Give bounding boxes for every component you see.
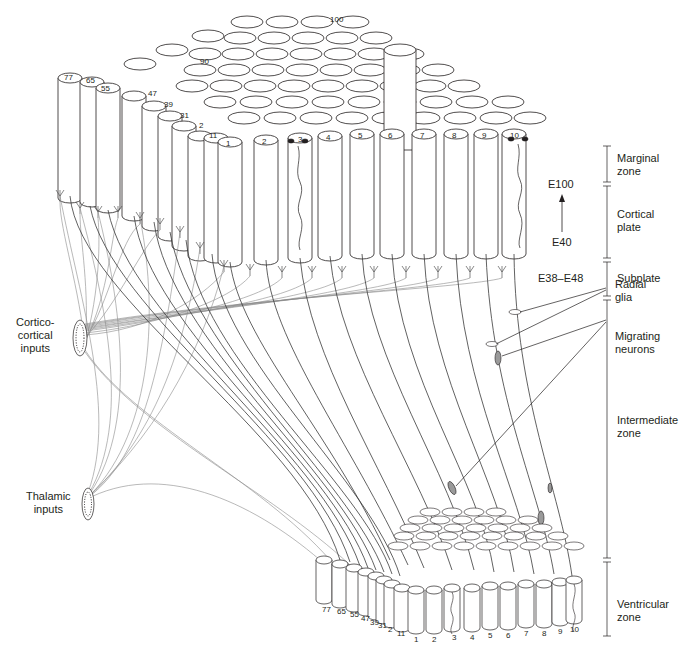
label-line: inputs bbox=[26, 503, 71, 516]
zone-label-cortical-plate: Cortical plate bbox=[617, 208, 654, 234]
annotation-radial-glia: Radial glia bbox=[615, 278, 646, 304]
svg-text:9: 9 bbox=[558, 627, 563, 636]
svg-text:4: 4 bbox=[326, 133, 331, 142]
svg-text:9: 9 bbox=[482, 131, 487, 140]
zone-brackets bbox=[603, 146, 611, 636]
svg-text:65: 65 bbox=[86, 76, 95, 85]
svg-text:4: 4 bbox=[470, 633, 475, 642]
annotation-line: neurons bbox=[615, 343, 660, 356]
svg-text:7: 7 bbox=[524, 629, 529, 638]
svg-text:7: 7 bbox=[420, 131, 425, 140]
radial-unit-diagram: 123 456 789 10 11231 394755 6577 90100 bbox=[0, 0, 697, 662]
label-line: cortical bbox=[16, 329, 55, 342]
zone-label-line: zone bbox=[617, 427, 678, 440]
svg-text:8: 8 bbox=[452, 131, 457, 140]
svg-text:11: 11 bbox=[397, 629, 406, 638]
svg-text:65: 65 bbox=[337, 607, 346, 616]
svg-text:8: 8 bbox=[542, 629, 547, 638]
svg-text:6: 6 bbox=[388, 131, 393, 140]
svg-text:31: 31 bbox=[180, 111, 189, 120]
zone-label-line: Marginal bbox=[617, 152, 659, 165]
zone-label-line: zone bbox=[617, 165, 659, 178]
label-line: Cortico- bbox=[16, 316, 55, 329]
migrating-neuron-bodies bbox=[446, 351, 552, 525]
svg-text:2: 2 bbox=[262, 137, 267, 146]
label-line: Thalamic bbox=[26, 490, 71, 503]
ventricular-front-columns bbox=[408, 576, 582, 634]
svg-text:55: 55 bbox=[350, 610, 359, 619]
back-rows bbox=[124, 16, 546, 124]
label-line: inputs bbox=[16, 342, 55, 355]
zone-label-line: Ventricular bbox=[617, 598, 669, 611]
svg-text:90: 90 bbox=[200, 57, 209, 66]
annotation-pointers bbox=[456, 288, 606, 486]
annotation-migrating-neurons: Migrating neurons bbox=[615, 330, 660, 356]
ventricular-column-array: 776555 473931 211 123 456 789 10 bbox=[316, 508, 584, 644]
zone-label-ventricular: Ventricular zone bbox=[617, 598, 669, 624]
cortical-column-array: 123 456 789 10 11231 394755 6577 90100 bbox=[58, 15, 546, 267]
svg-text:77: 77 bbox=[322, 605, 331, 614]
svg-text:5: 5 bbox=[488, 631, 493, 640]
svg-text:47: 47 bbox=[148, 89, 157, 98]
time-label-e100: E100 bbox=[548, 178, 574, 191]
thalamic-bundle bbox=[82, 488, 94, 520]
svg-text:39: 39 bbox=[164, 100, 173, 109]
svg-text:2: 2 bbox=[388, 625, 393, 634]
zone-label-line: Intermediate bbox=[617, 414, 678, 427]
corticocortical-bundle bbox=[73, 320, 87, 356]
svg-text:55: 55 bbox=[101, 84, 110, 93]
annotation-line: Migrating bbox=[615, 330, 660, 343]
time-label-subplate: E38–E48 bbox=[538, 272, 583, 285]
label-thalamic-inputs: Thalamic inputs bbox=[26, 490, 71, 516]
svg-text:1: 1 bbox=[414, 635, 419, 644]
svg-text:11: 11 bbox=[209, 131, 218, 140]
label-corticocortical-inputs: Cortico- cortical inputs bbox=[16, 316, 55, 355]
zone-label-line: zone bbox=[617, 611, 669, 624]
annotation-line: Radial bbox=[615, 278, 646, 291]
svg-text:2: 2 bbox=[199, 121, 204, 130]
annotation-line: glia bbox=[615, 291, 646, 304]
svg-text:10: 10 bbox=[570, 625, 579, 634]
zone-label-intermediate: Intermediate zone bbox=[617, 414, 678, 440]
svg-text:100: 100 bbox=[330, 15, 344, 24]
svg-text:31: 31 bbox=[378, 621, 387, 630]
svg-text:1: 1 bbox=[226, 139, 231, 148]
zone-label-line: Cortical bbox=[617, 208, 654, 221]
time-arrow bbox=[559, 194, 565, 232]
svg-text:2: 2 bbox=[432, 635, 437, 644]
zone-label-marginal: Marginal zone bbox=[617, 152, 659, 178]
svg-text:6: 6 bbox=[506, 631, 511, 640]
svg-text:77: 77 bbox=[64, 73, 73, 82]
svg-text:5: 5 bbox=[358, 131, 363, 140]
zone-label-line: plate bbox=[617, 221, 654, 234]
time-label-e40: E40 bbox=[552, 236, 572, 249]
front-row-columns bbox=[218, 129, 526, 267]
svg-text:3: 3 bbox=[452, 633, 457, 642]
